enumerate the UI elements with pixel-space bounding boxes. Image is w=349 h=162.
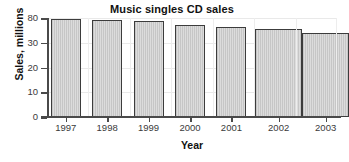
x-axis-label: Year xyxy=(44,139,340,151)
x-axis-tick-label: 2003 xyxy=(306,122,346,133)
y-axis-tick xyxy=(41,68,47,70)
gridline-horizontal xyxy=(47,18,337,19)
bar xyxy=(92,20,122,117)
gridline-vertical xyxy=(213,18,214,117)
bar xyxy=(216,27,246,117)
gridline-vertical xyxy=(130,18,131,117)
x-axis-tick-label: 1997 xyxy=(46,122,86,133)
x-axis-tick-label: 1999 xyxy=(129,122,169,133)
y-axis-tick-label: 10 xyxy=(0,86,38,97)
chart-title: Music singles CD sales xyxy=(0,3,344,15)
x-axis-tick-label: 1998 xyxy=(87,122,127,133)
y-axis-tick-label: 30 xyxy=(0,37,38,48)
bar xyxy=(51,19,81,117)
gridline-vertical xyxy=(88,18,89,117)
bar xyxy=(134,21,164,117)
y-axis-tick-label: 20 xyxy=(0,62,38,73)
plot-area xyxy=(47,18,337,117)
y-axis-line xyxy=(47,18,49,117)
x-axis-tick-label: 2000 xyxy=(170,122,210,133)
bar xyxy=(175,25,205,117)
gridline-vertical xyxy=(171,18,172,117)
y-axis-tick-label: 0 xyxy=(0,111,38,122)
y-axis-tick-label: 80 xyxy=(0,12,38,23)
x-axis-tick-label: 2002 xyxy=(259,122,299,133)
x-axis-tick-label: 2001 xyxy=(211,122,251,133)
gridline-vertical xyxy=(336,18,337,117)
y-axis-tick xyxy=(41,18,47,20)
gridline-vertical xyxy=(296,18,297,117)
gridline-vertical xyxy=(254,18,255,117)
y-axis-tick xyxy=(41,92,47,94)
bar xyxy=(302,33,349,117)
y-axis-tick xyxy=(41,43,47,45)
y-axis-tick xyxy=(41,117,47,119)
